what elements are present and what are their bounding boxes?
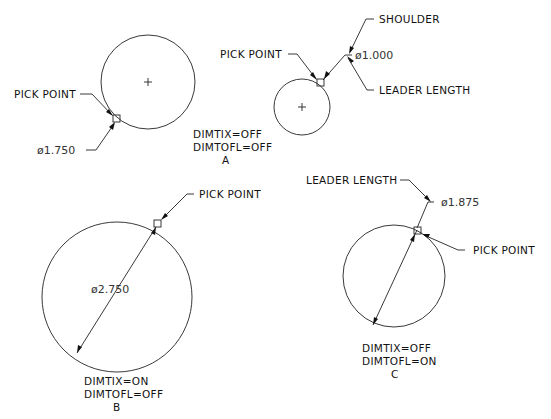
circle-c: [343, 225, 445, 327]
dimtofl-setting: DIMTOFL=OFF: [84, 388, 163, 400]
dimtofl-setting: DIMTOFL=ON: [362, 355, 437, 367]
panel-a-left: PICK POINT ø1.750: [14, 35, 195, 157]
pick-point-label: PICK POINT: [14, 88, 76, 100]
pick-point-label: PICK POINT: [473, 244, 535, 256]
shoulder-callout-line: [350, 19, 374, 52]
panel-label: B: [113, 401, 121, 413]
diameter-line: [373, 230, 417, 325]
arrowhead-icon: [324, 71, 330, 79]
shoulder-label: SHOULDER: [379, 13, 440, 25]
dimension-text: ø2.750: [91, 283, 129, 296]
circle-b: [42, 222, 192, 372]
arrowhead-icon: [349, 46, 354, 54]
dimtix-setting: DIMTIX=ON: [84, 375, 149, 387]
dimtofl-setting: DIMTOFL=OFF: [193, 141, 272, 153]
dimtix-setting: DIMTIX=OFF: [193, 128, 262, 140]
leader-length-callout-line: [400, 180, 429, 200]
pick-leader-line: [163, 194, 194, 218]
pick-point-box: [154, 220, 161, 227]
panel-label: A: [222, 154, 230, 166]
pick-leader-line: [424, 235, 465, 250]
dimension-leader-line: [417, 202, 434, 228]
dimension-text: ø1.875: [441, 196, 479, 209]
leader-length-callout-line: [348, 58, 374, 90]
leader-length-label: LEADER LENGTH: [306, 174, 397, 186]
panel-a-settings: DIMTIX=OFF DIMTOFL=OFF A: [193, 128, 272, 166]
panel-label: C: [391, 368, 399, 380]
arrowhead-icon: [347, 56, 354, 63]
panel-a-right: PICK POINT ø1.000 SHOULDER LEADER LENGTH: [220, 13, 470, 135]
center-mark-icon: [298, 103, 306, 111]
leader-length-label: LEADER LENGTH: [379, 84, 470, 96]
dimension-text: ø1.000: [355, 49, 393, 62]
pick-point-label: PICK POINT: [220, 48, 282, 60]
dimtix-setting: DIMTIX=OFF: [362, 342, 431, 354]
dimension-text: ø1.750: [37, 144, 75, 157]
pick-point-box: [317, 79, 324, 86]
pick-point-label: PICK POINT: [199, 188, 261, 200]
dimension-leader-line: [86, 124, 114, 150]
arrowhead-icon: [109, 122, 115, 130]
panel-b: ø2.750 PICK POINT DIMTIX=ON DIMTOFL=OFF …: [42, 188, 261, 413]
arrowhead-icon: [410, 234, 415, 242]
dimension-leader-line: [323, 55, 352, 80]
center-mark-icon: [144, 78, 152, 86]
diagram-canvas: PICK POINT ø1.750 PICK POINT ø1.000 SHOU…: [0, 0, 551, 419]
panel-c: LEADER LENGTH ø1.875 PICK POINT DIMTIX=O…: [306, 174, 535, 380]
